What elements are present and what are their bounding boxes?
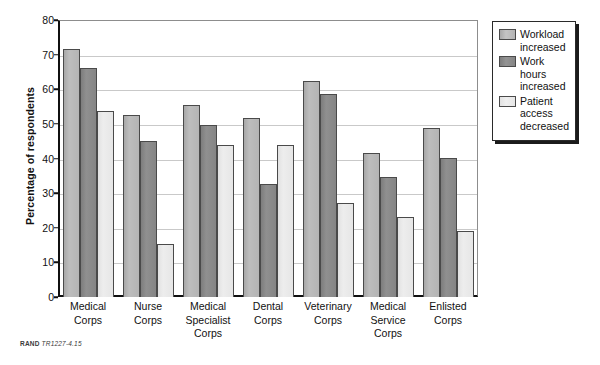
x-tick-label-line: Medical	[178, 300, 238, 314]
bar-medical-corps-series-2[interactable]	[97, 111, 114, 297]
bar-group-medical-service-corps	[358, 20, 418, 297]
legend-item-1[interactable]: Workhoursincreased	[499, 55, 570, 93]
x-tick-label-line: Medical	[358, 300, 418, 314]
legend-swatch-icon-2	[499, 96, 516, 107]
bar-veterinary-corps-series-1[interactable]	[320, 94, 337, 297]
bar-dental-corps-series-2[interactable]	[277, 145, 294, 297]
bar-group-dental-corps	[238, 20, 298, 297]
x-tick-label-line: Corps	[58, 314, 118, 328]
legend-label-2: Patientaccessdecreased	[520, 95, 569, 133]
x-tick-label-line: Corps	[418, 314, 478, 328]
y-tick-label-50: 50	[42, 118, 54, 130]
bar-veterinary-corps-series-0[interactable]	[303, 81, 320, 297]
y-axis-ticks: 80706050403020100	[0, 20, 58, 297]
bar-medical-specialist-corps-series-1[interactable]	[200, 125, 217, 297]
x-tick-label-dental-corps: DentalCorps	[238, 300, 298, 341]
bar-enlisted-corps-series-2[interactable]	[457, 231, 474, 297]
x-tick-label-line: Corps	[238, 314, 298, 328]
bar-medical-corps-series-0[interactable]	[63, 49, 80, 297]
legend-label-line: access	[520, 107, 569, 120]
y-tick-label-40: 40	[42, 153, 54, 165]
bar-nurse-corps-series-0[interactable]	[123, 115, 140, 297]
legend-label-line: increased	[520, 41, 566, 54]
legend-item-2[interactable]: Patientaccessdecreased	[499, 95, 570, 133]
legend-label-line: increased	[520, 80, 566, 93]
x-tick-label-medical-corps: MedicalCorps	[58, 300, 118, 341]
x-tick-label-line: Nurse	[118, 300, 178, 314]
bar-medical-service-corps-series-0[interactable]	[363, 153, 380, 297]
y-tick-label-20: 20	[42, 222, 54, 234]
bar-group-nurse-corps	[118, 20, 178, 297]
legend-item-0[interactable]: Workloadincreased	[499, 28, 570, 53]
x-tick-label-line: Medical	[58, 300, 118, 314]
x-tick-label-veterinary-corps: VeterinaryCorps	[298, 300, 358, 341]
x-axis-labels: MedicalCorpsNurseCorpsMedicalSpecialistC…	[58, 300, 478, 341]
footnote-figure-id: TR1227-4.15	[42, 340, 82, 347]
legend-swatch-icon-0	[499, 29, 516, 40]
y-tick-label-70: 70	[42, 49, 54, 61]
bar-dental-corps-series-0[interactable]	[243, 118, 260, 297]
bar-nurse-corps-series-1[interactable]	[140, 141, 157, 297]
bar-medical-corps-series-1[interactable]	[80, 68, 97, 297]
bar-series-layer	[58, 20, 478, 297]
x-tick-label-line: Dental	[238, 300, 298, 314]
legend-label-line: Work	[520, 55, 566, 68]
footnote-rand-mark: RAND	[20, 340, 40, 347]
figure-container: Percentage of respondents 80706050403020…	[0, 0, 600, 365]
x-tick-label-line: Enlisted	[418, 300, 478, 314]
y-tick-label-10: 10	[42, 256, 54, 268]
x-tick-label-medical-specialist-corps: MedicalSpecialistCorps	[178, 300, 238, 341]
x-tick-label-medical-service-corps: MedicalServiceCorps	[358, 300, 418, 341]
x-tick-label-line: Corps	[118, 314, 178, 328]
x-tick-label-nurse-corps: NurseCorps	[118, 300, 178, 341]
legend: WorkloadincreasedWorkhoursincreasedPatie…	[492, 21, 576, 141]
x-tick-label-line: Veterinary	[298, 300, 358, 314]
legend-label-line: Workload	[520, 28, 566, 41]
y-tick-label-30: 30	[42, 187, 54, 199]
x-tick-label-enlisted-corps: EnlistedCorps	[418, 300, 478, 341]
bar-group-medical-corps	[58, 20, 118, 297]
legend-label-0: Workloadincreased	[520, 28, 566, 53]
legend-swatch-icon-1	[499, 56, 516, 67]
bar-medical-specialist-corps-series-0[interactable]	[183, 105, 200, 297]
legend-label-line: decreased	[520, 120, 569, 133]
bar-enlisted-corps-series-0[interactable]	[423, 128, 440, 297]
x-tick-label-line: Corps	[178, 327, 238, 341]
legend-label-line: hours	[520, 68, 566, 81]
bar-group-medical-specialist-corps	[178, 20, 238, 297]
bar-enlisted-corps-series-1[interactable]	[440, 158, 457, 297]
legend-label-1: Workhoursincreased	[520, 55, 566, 93]
bar-group-veterinary-corps	[298, 20, 358, 297]
y-tick-label-60: 60	[42, 83, 54, 95]
bar-medical-service-corps-series-1[interactable]	[380, 177, 397, 297]
y-tick-label-80: 80	[42, 14, 54, 26]
bar-group-enlisted-corps	[418, 20, 478, 297]
bar-dental-corps-series-1[interactable]	[260, 184, 277, 297]
bar-nurse-corps-series-2[interactable]	[157, 244, 174, 297]
x-tick-label-line: Corps	[358, 327, 418, 341]
bar-veterinary-corps-series-2[interactable]	[337, 203, 354, 297]
bar-medical-service-corps-series-2[interactable]	[397, 217, 414, 297]
legend-label-line: Patient	[520, 95, 569, 108]
x-tick-label-line: Service	[358, 314, 418, 328]
figure-source-note: RAND TR1227-4.15	[20, 340, 82, 347]
x-tick-label-line: Specialist	[178, 314, 238, 328]
bar-medical-specialist-corps-series-2[interactable]	[217, 145, 234, 297]
x-tick-label-line: Corps	[298, 314, 358, 328]
